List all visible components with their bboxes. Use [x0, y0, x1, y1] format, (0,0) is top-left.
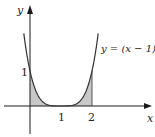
function-plot: y x 1 1 2 y = (x − 1)⁴	[0, 0, 155, 137]
x-axis-label: x	[147, 112, 154, 125]
shaded-area	[30, 71, 92, 106]
x-tick-label-1: 1	[58, 111, 65, 124]
y-axis-label: y	[16, 4, 24, 17]
x-axis-arrow-icon	[144, 103, 152, 109]
x-tick-label-2: 2	[88, 111, 95, 124]
y-tick-label-1: 1	[21, 66, 28, 79]
curve-label: y = (x − 1)⁴	[100, 43, 155, 54]
y-axis-arrow-icon	[27, 5, 33, 14]
